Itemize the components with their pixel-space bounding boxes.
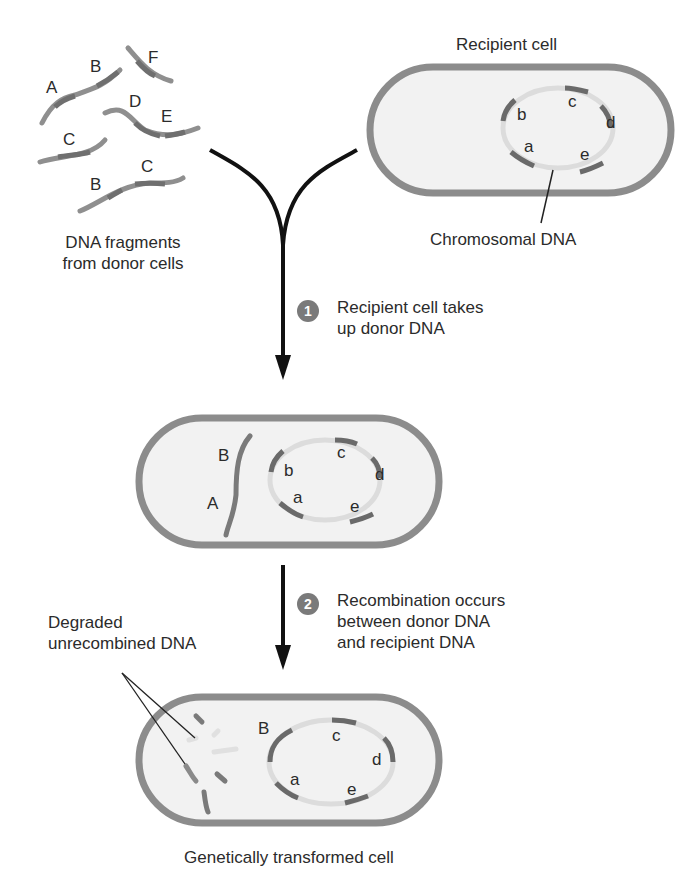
degraded-line2: unrecombined DNA <box>48 633 196 654</box>
gene-label-e: e <box>580 145 589 165</box>
fragment-label-c2: C <box>141 157 153 177</box>
cell3-gene-label-e: e <box>347 780 356 800</box>
donor-dna-caption: DNA fragments from donor cells <box>28 232 218 274</box>
cell-after-uptake <box>139 418 439 545</box>
step-2-line2: between donor DNA <box>337 611 505 632</box>
degraded-line1: Degraded <box>48 612 196 633</box>
cell3-gene-label-B: B <box>258 719 269 739</box>
chromosomal-dna-label: Chromosomal DNA <box>430 229 576 250</box>
degraded-dna-label: Degraded unrecombined DNA <box>48 612 196 654</box>
gene-label-d: d <box>606 113 615 133</box>
step-1-line1: Recipient cell takes <box>337 297 483 318</box>
fragment-label-d: D <box>129 92 141 112</box>
cell2-gene-label-b: b <box>284 461 293 481</box>
step-1-line2: up donor DNA <box>337 318 483 339</box>
step-1-text: Recipient cell takes up donor DNA <box>337 297 483 339</box>
arrow-head-2 <box>275 645 291 670</box>
step-2-line3: and recipient DNA <box>337 632 505 653</box>
cell2-gene-label-d: d <box>375 465 384 485</box>
gene-label-a: a <box>524 137 533 157</box>
fragment-label-f: F <box>148 48 158 68</box>
step-2-text: Recombination occurs between donor DNA a… <box>337 590 505 653</box>
fragment-label-e: E <box>161 107 172 127</box>
gene-label-b: b <box>517 105 526 125</box>
cell2-fragment-label-a: A <box>207 494 218 514</box>
fragment-label-b: B <box>90 57 101 77</box>
transformed-cell-label: Genetically transformed cell <box>139 847 439 868</box>
fragment-label-c: C <box>63 130 75 150</box>
recipient-cell <box>370 67 671 193</box>
fragment-label-b2: B <box>90 175 101 195</box>
step-2-badge: 2 <box>297 593 319 615</box>
cell2-gene-label-c: c <box>337 443 346 463</box>
cell3-gene-label-d: d <box>372 750 381 770</box>
step-1-badge: 1 <box>297 300 319 322</box>
cell2-fragment-label-b: B <box>218 446 229 466</box>
merge-arrow <box>210 150 357 360</box>
cell3-gene-label-c: c <box>332 726 341 746</box>
donor-dna-caption-line2: from donor cells <box>28 253 218 274</box>
step-2-line1: Recombination occurs <box>337 590 505 611</box>
cell3-gene-label-a: a <box>290 770 299 790</box>
gene-label-c: c <box>568 92 577 112</box>
fragment-label-a: A <box>46 78 57 98</box>
arrow-head-1 <box>275 355 291 380</box>
recipient-cell-label: Recipient cell <box>456 34 557 55</box>
donor-dna-caption-line1: DNA fragments <box>28 232 218 253</box>
cell2-gene-label-a: a <box>293 488 302 508</box>
diagram-canvas <box>0 0 698 883</box>
cell2-gene-label-e: e <box>350 497 359 517</box>
